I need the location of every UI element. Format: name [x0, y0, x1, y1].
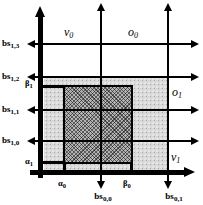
- alpha1-level-segment: [43, 161, 65, 164]
- bs00-label: bs0,0: [86, 191, 120, 203]
- bs12-label-sub: 1,2: [11, 75, 20, 83]
- bs12-label: bs1,2: [2, 71, 19, 83]
- alpha1-sub: 1: [30, 160, 33, 167]
- beta0-sub: 0: [127, 182, 130, 189]
- o0-region-label: o0: [128, 25, 138, 40]
- beta0-mark-label: β0: [123, 178, 131, 190]
- bs01-label: bs0,1: [157, 191, 191, 203]
- horizontal-axis: [30, 170, 184, 175]
- o0-label-sub: 0: [134, 31, 138, 40]
- diagram-canvas: bs1,3 bs1,2 bs1,1 bs1,0 bs0,0 bs0,1 v0 o…: [0, 0, 203, 205]
- v0-region-label: v0: [64, 25, 73, 40]
- arrow-up-icon: [164, 3, 172, 11]
- bs11-label: bs1,1: [2, 104, 19, 116]
- arrow-down-icon: [164, 181, 172, 189]
- vertical-axis: [38, 16, 43, 178]
- bs13-label: bs1,3: [2, 38, 19, 50]
- bs10-label-sub: 1,0: [11, 139, 20, 147]
- bs10-label: bs1,0: [2, 135, 19, 147]
- o1-label-sub: 1: [178, 91, 182, 100]
- beta1-sub: 1: [29, 82, 32, 89]
- bs12-label-main: bs: [2, 71, 11, 81]
- bs13-label-sub: 1,3: [11, 42, 20, 50]
- axis-arrow-up-icon: [35, 6, 45, 17]
- arrow-right-icon: [191, 73, 199, 81]
- o1-region-label: o1: [172, 85, 182, 100]
- alpha1-mark-label: α1: [25, 156, 33, 168]
- bs00-label-main: bs: [94, 191, 103, 201]
- arrow-left-icon: [27, 40, 35, 48]
- arrow-left-icon: [27, 137, 35, 145]
- v0-label-sub: 0: [69, 31, 73, 40]
- crosshatched-interval-box: [63, 85, 133, 164]
- axis-arrow-right-icon: [184, 167, 195, 177]
- bs10-label-main: bs: [2, 135, 11, 145]
- bs11-label-main: bs: [2, 104, 11, 114]
- arrow-up-icon: [97, 3, 105, 11]
- beta1-level-segment: [43, 85, 65, 88]
- arrow-down-icon: [97, 181, 105, 189]
- bs00-label-sub: 0,0: [103, 195, 112, 203]
- v1-region-label: v1: [171, 150, 180, 165]
- arrow-right-icon: [191, 137, 199, 145]
- bs13-label-main: bs: [2, 38, 11, 48]
- alpha0-mark-label: α0: [58, 178, 66, 190]
- bs-0-0-line: [100, 10, 102, 182]
- arrow-right-icon: [191, 40, 199, 48]
- bs01-label-main: bs: [165, 191, 174, 201]
- bs01-label-sub: 0,1: [174, 195, 183, 203]
- alpha0-sub: 0: [63, 182, 66, 189]
- beta1-mark-label: β1: [25, 78, 33, 90]
- bs-0-1-line: [167, 10, 169, 182]
- bs11-label-sub: 1,1: [11, 108, 20, 116]
- arrow-right-icon: [191, 106, 199, 114]
- v1-label-sub: 1: [176, 156, 180, 165]
- arrow-left-icon: [27, 106, 35, 114]
